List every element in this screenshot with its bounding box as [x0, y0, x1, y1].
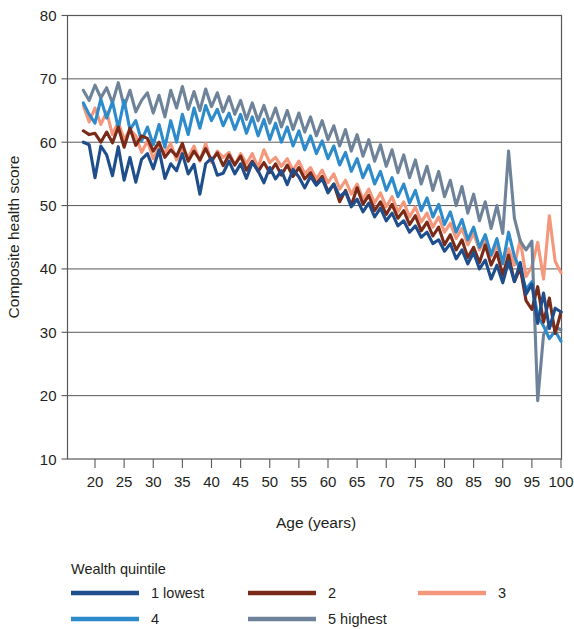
x-tick-label-90: 90: [494, 473, 511, 490]
y-tick-label-80: 80: [40, 7, 57, 24]
x-tick-label-100: 100: [548, 473, 573, 490]
x-tick-label-95: 95: [524, 473, 541, 490]
x-tick-label-65: 65: [349, 473, 366, 490]
y-tick-label-40: 40: [40, 260, 57, 277]
x-tick-label-20: 20: [87, 473, 104, 490]
y-tick-label-70: 70: [40, 70, 57, 87]
y-tick-label-50: 50: [40, 197, 57, 214]
x-axis-title: Age (years): [276, 514, 356, 531]
x-tick-label-35: 35: [174, 473, 191, 490]
y-tick-label-30: 30: [40, 324, 57, 341]
legend-label-1-lowest: 1 lowest: [151, 585, 204, 601]
x-tick-label-50: 50: [261, 473, 278, 490]
x-tick-label-25: 25: [116, 473, 133, 490]
x-tick-label-60: 60: [320, 473, 337, 490]
legend-label-3: 3: [498, 585, 506, 601]
x-tick-label-55: 55: [291, 473, 308, 490]
composite-health-score-line-chart: 8070605040302010 20253035404550556065707…: [0, 0, 574, 629]
x-tick-label-85: 85: [465, 473, 482, 490]
x-tick-label-75: 75: [407, 473, 424, 490]
y-axis-title: Composite health score: [5, 156, 22, 319]
legend-label-4: 4: [151, 611, 159, 627]
x-tick-label-30: 30: [145, 473, 162, 490]
x-tick-label-40: 40: [203, 473, 220, 490]
chart-figure: 8070605040302010 20253035404550556065707…: [0, 0, 574, 629]
x-tick-label-70: 70: [378, 473, 395, 490]
legend-label-5-highest: 5 highest: [328, 611, 387, 627]
x-tick-label-45: 45: [232, 473, 249, 490]
x-tick-label-80: 80: [436, 473, 453, 490]
legend-label-2: 2: [328, 585, 336, 601]
y-tick-label-20: 20: [40, 387, 57, 404]
legend-title: Wealth quintile: [71, 561, 166, 577]
y-tick-label-10: 10: [40, 451, 57, 468]
y-tick-label-60: 60: [40, 134, 57, 151]
